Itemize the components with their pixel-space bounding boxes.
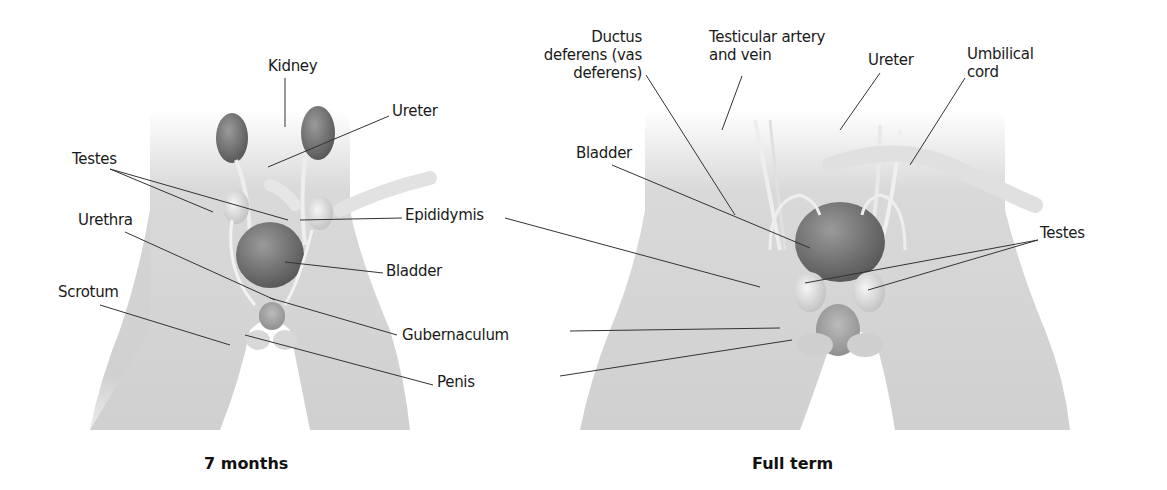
caption-7-months: 7 months (204, 454, 288, 473)
label-epididymis: Epididymis (405, 206, 484, 224)
label-scrotum: Scrotum (58, 283, 119, 301)
kidney-left (216, 113, 248, 163)
testis-right (307, 196, 333, 230)
label-testes-full-term: Testes (1040, 224, 1085, 242)
bladder-full-term (795, 202, 885, 282)
label-bladder-full-term: Bladder (576, 144, 632, 162)
kidney-right (301, 106, 335, 160)
label-urethra: Urethra (78, 211, 133, 229)
label-penis: Penis (437, 373, 475, 391)
testis-left-full-term (794, 272, 826, 312)
anatomy-diagram: Kidney Ureter Testes Urethra Epididymis … (0, 0, 1167, 490)
label-ductus-deferens: Ductus deferens (vas deferens) (570, 28, 642, 82)
body-full-term (580, 110, 1070, 430)
label-umbilical-cord: Umbilical cord (967, 45, 1034, 81)
label-bladder: Bladder (386, 262, 442, 280)
testis-right-full-term (853, 272, 885, 312)
label-ureter: Ureter (392, 102, 438, 120)
label-gubernaculum: Gubernaculum (402, 326, 509, 344)
bladder (236, 222, 304, 288)
caption-full-term: Full term (752, 454, 833, 473)
testis-left (223, 190, 249, 224)
label-testicular-artery-vein: Testicular artery and vein (709, 28, 825, 64)
body-7-months (90, 106, 430, 430)
label-testes: Testes (72, 150, 117, 168)
label-ureter-full-term: Ureter (868, 51, 914, 69)
label-kidney: Kidney (268, 57, 317, 75)
